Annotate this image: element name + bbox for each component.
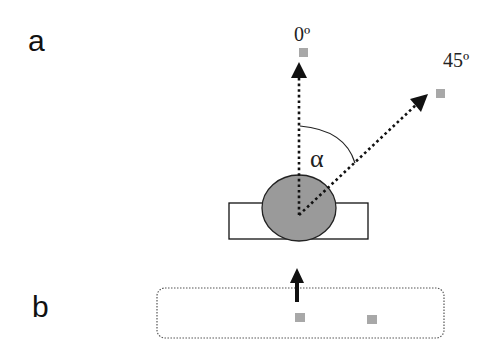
field-marker-1: [295, 313, 305, 322]
angle-arc: [300, 126, 355, 163]
target-marker-0: [299, 48, 308, 57]
diagram-canvas: [0, 0, 501, 353]
diagonal-direction-line: [299, 104, 417, 215]
panel-b-arrowhead-icon: [290, 268, 304, 283]
arrowhead-diagonal-icon: [410, 94, 428, 112]
target-marker-45: [436, 89, 445, 98]
field-marker-2: [367, 315, 377, 324]
arrowhead-up-icon: [291, 62, 307, 78]
